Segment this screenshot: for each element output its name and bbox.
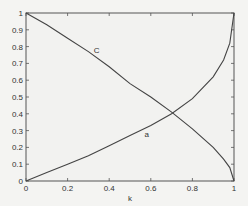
y-tick-label: 0.4 (12, 110, 24, 119)
x-tick-label: 0.4 (104, 184, 116, 193)
x-axis-label: k (128, 194, 133, 203)
y-tick-label: 0.1 (12, 160, 24, 169)
curve-label-c: C (94, 46, 100, 55)
x-tick-label: 0.2 (62, 184, 74, 193)
x-tick-label: 0.8 (187, 184, 199, 193)
x-tick-label: 0 (24, 184, 29, 193)
x-tick-label: 1 (232, 184, 237, 193)
y-tick-label: 0.2 (12, 143, 24, 152)
curve-label-a: a (144, 130, 149, 139)
chart-svg: 00.20.40.60.8100.10.20.30.40.50.60.70.80… (0, 0, 248, 206)
plot-area (26, 13, 234, 181)
y-tick-label: 0 (19, 177, 24, 186)
y-tick-label: 0.3 (12, 127, 24, 136)
y-tick-label: 0.5 (12, 93, 24, 102)
line-chart: 00.20.40.60.8100.10.20.30.40.50.60.70.80… (0, 0, 248, 206)
y-tick-label: 1 (19, 9, 24, 18)
y-tick-label: 0.7 (12, 59, 24, 68)
y-tick-label: 0.9 (12, 26, 24, 35)
y-tick-label: 0.6 (12, 76, 24, 85)
x-tick-label: 0.6 (145, 184, 157, 193)
y-tick-label: 0.8 (12, 43, 24, 52)
